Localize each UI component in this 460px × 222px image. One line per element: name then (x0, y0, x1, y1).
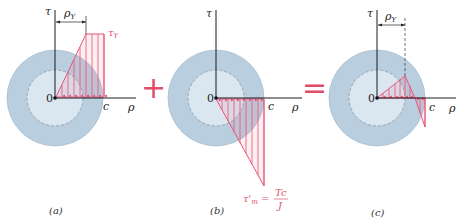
rho-axis-label-a: ρ (127, 101, 135, 114)
caption-c: (c) (371, 207, 385, 218)
tau-axis-label-a: τ (45, 5, 52, 18)
panel-a: τ ρY τY 0 c ρ (a) (7, 5, 136, 216)
c-label-a: c (103, 100, 109, 113)
c-label-c: c (429, 101, 435, 114)
origin-dot-a (53, 96, 57, 100)
origin-label-b: 0 (207, 92, 214, 105)
plus-operator: + (141, 70, 166, 105)
svg-text:Tc: Tc (275, 187, 287, 198)
panel-b: τ 0 c ρ τ'm= Tc J (b) (168, 7, 302, 216)
tau-y-label-a: τY (108, 27, 120, 40)
origin-label-c: 0 (368, 92, 375, 105)
origin-label-a: 0 (46, 92, 53, 105)
rho-axis-label-c: ρ (448, 102, 456, 115)
torsion-residual-stress-diagram: τ ρY τY 0 c ρ (a) + τ 0 c ρ τ'm (0, 0, 460, 222)
caption-a: (a) (49, 205, 63, 216)
equals-operator: = (302, 70, 327, 105)
tau-axis-label-b: τ (206, 7, 213, 20)
rho-axis-label-b: ρ (291, 101, 299, 114)
origin-dot-b (214, 96, 218, 100)
panel-c: τ ρY 0 c ρ (c) (329, 7, 456, 218)
svg-text:τ'm=: τ'm= (243, 193, 269, 206)
tau-axis-label-c: τ (367, 7, 374, 20)
caption-b: (b) (210, 205, 224, 216)
c-label-b: c (268, 100, 274, 113)
svg-text:J: J (276, 200, 283, 211)
rho-y-label-c: ρY (384, 10, 397, 24)
rho-y-label-a: ρY (63, 7, 76, 21)
tau-m-prime-label: τ'm= Tc J (243, 187, 288, 211)
origin-dot-c (375, 96, 379, 100)
